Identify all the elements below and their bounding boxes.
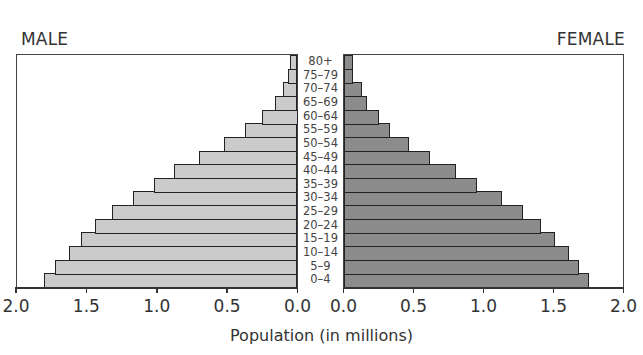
male-bar bbox=[275, 96, 298, 111]
female-bar bbox=[344, 246, 569, 261]
age-group-label: 10–14 bbox=[298, 246, 344, 260]
x-tick-label: 1.5 bbox=[66, 296, 106, 316]
x-tick bbox=[623, 287, 625, 293]
x-tick bbox=[553, 287, 555, 293]
male-bar bbox=[245, 123, 297, 138]
age-group-label: 70–74 bbox=[298, 82, 344, 96]
x-tick-label: 1.5 bbox=[534, 296, 574, 316]
x-tick-label: 0.5 bbox=[394, 296, 434, 316]
x-tick-label: 2.0 bbox=[604, 296, 643, 316]
age-group-label: 25–29 bbox=[298, 205, 344, 219]
x-tick-label: 1.0 bbox=[137, 296, 177, 316]
x-tick bbox=[15, 287, 17, 293]
age-group-label: 45–49 bbox=[298, 151, 344, 165]
age-group-label: 30–34 bbox=[298, 191, 344, 205]
female-bar bbox=[344, 164, 456, 179]
male-bar bbox=[174, 164, 298, 179]
male-bar bbox=[55, 260, 297, 275]
female-bar bbox=[344, 82, 362, 97]
female-bar bbox=[344, 260, 579, 275]
x-tick-label: 0.0 bbox=[278, 296, 318, 316]
male-bar bbox=[288, 69, 298, 84]
x-tick bbox=[343, 287, 345, 293]
female-bar bbox=[344, 178, 477, 193]
age-group-label: 15–19 bbox=[298, 232, 344, 246]
male-bar bbox=[133, 191, 298, 206]
male-bar bbox=[290, 55, 297, 70]
male-bar bbox=[262, 110, 297, 125]
female-bar bbox=[344, 151, 431, 166]
age-group-label: 40–44 bbox=[298, 164, 344, 178]
female-bar bbox=[344, 110, 379, 125]
female-bar bbox=[344, 55, 354, 70]
male-bar bbox=[154, 178, 298, 193]
x-tick bbox=[297, 287, 299, 293]
male-label: MALE bbox=[21, 29, 68, 49]
x-tick bbox=[226, 287, 228, 293]
x-tick bbox=[86, 287, 88, 293]
x-tick bbox=[156, 287, 158, 293]
male-bar bbox=[69, 246, 297, 261]
age-group-label: 80+ bbox=[298, 55, 344, 69]
age-group-label: 50–54 bbox=[298, 137, 344, 151]
male-bar bbox=[224, 137, 297, 152]
x-axis-title: Population (in millions) bbox=[0, 326, 643, 345]
female-bar bbox=[344, 96, 368, 111]
female-bar bbox=[344, 205, 523, 220]
female-bar bbox=[344, 191, 502, 206]
age-group-label: 55–59 bbox=[298, 123, 344, 137]
x-tick-label: 2.0 bbox=[0, 296, 36, 316]
x-tick-label: 0.0 bbox=[324, 296, 364, 316]
age-group-label: 75–79 bbox=[298, 69, 344, 83]
male-bar bbox=[95, 219, 298, 234]
age-group-label: 5–9 bbox=[298, 260, 344, 274]
male-bar bbox=[283, 82, 297, 97]
female-bar bbox=[344, 69, 354, 84]
x-tick-label: 1.0 bbox=[464, 296, 504, 316]
x-tick bbox=[483, 287, 485, 293]
age-group-label: 20–24 bbox=[298, 219, 344, 233]
male-bar bbox=[81, 232, 298, 247]
male-bar bbox=[112, 205, 298, 220]
female-bar bbox=[344, 137, 410, 152]
female-bar bbox=[344, 232, 555, 247]
age-group-label: 0–4 bbox=[298, 273, 344, 287]
x-tick bbox=[413, 287, 415, 293]
female-bar bbox=[344, 123, 390, 138]
female-bar bbox=[344, 219, 541, 234]
female-label: FEMALE bbox=[557, 29, 625, 49]
age-group-label: 65–69 bbox=[298, 96, 344, 110]
x-tick-label: 0.5 bbox=[207, 296, 247, 316]
male-bar bbox=[199, 151, 298, 166]
age-group-label: 60–64 bbox=[298, 110, 344, 124]
age-group-label: 35–39 bbox=[298, 178, 344, 192]
